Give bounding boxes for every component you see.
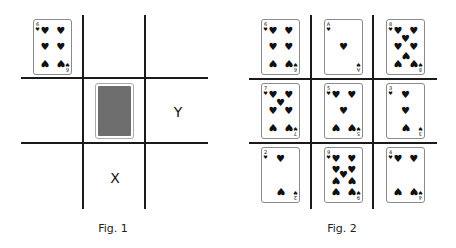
heart-icon: ♥ [332, 154, 341, 164]
heart-icon: ♥ [276, 154, 285, 164]
heart-icon: ♥ [409, 58, 418, 68]
card-index: 8♥ [388, 22, 393, 32]
heart-icon: ♥ [347, 90, 356, 100]
playing-card: 6♥6♥♥♥♥♥♥♥ [33, 19, 72, 75]
heart-icon: ♥ [332, 175, 341, 185]
cell-label-y: Y [174, 104, 183, 120]
grid-line-vertical [372, 15, 374, 209]
card-index: 2♥ [293, 190, 298, 200]
playing-card: 6♥6♥♥♥♥♥♥♥ [261, 19, 300, 75]
heart-icon: ♥ [269, 26, 278, 36]
heart-icon: ♥ [284, 122, 293, 132]
card-index: 9♥ [326, 150, 331, 160]
grid-line-horizontal [21, 77, 208, 79]
heart-icon: ♥ [284, 58, 293, 68]
card-index: 5♥ [356, 126, 361, 136]
card-index: 8♥ [418, 62, 423, 72]
heart-icon: ♥ [332, 186, 341, 196]
grid-line-vertical [144, 15, 146, 209]
heart-icon: ♥ [269, 42, 278, 52]
card-index: 2♥ [263, 150, 268, 160]
card-index: 3♥ [388, 86, 393, 96]
card-index: 3♥ [418, 126, 423, 136]
heart-icon: ♥ [347, 165, 356, 175]
heart-icon: ♥ [347, 122, 356, 132]
heart-icon: ♥ [284, 26, 293, 36]
heart-icon: ♥ [347, 186, 356, 196]
playing-card: 9♥9♥♥♥♥♥♥♥♥♥♥ [324, 147, 363, 203]
grid-line-horizontal [21, 142, 208, 144]
heart-icon: ♥ [56, 26, 65, 36]
heart-icon: ♥ [269, 106, 278, 116]
figure-caption: Fig. 2 [327, 222, 357, 235]
heart-icon: ♥ [409, 186, 418, 196]
figure-caption: Fig. 1 [98, 222, 128, 235]
heart-icon: ♥ [347, 154, 356, 164]
heart-icon: ♥ [41, 58, 50, 68]
cell-label-x: X [110, 170, 120, 186]
heart-icon: ♥ [409, 26, 418, 36]
grid-line-vertical [82, 15, 84, 209]
figure-2: 6♥6♥♥♥♥♥♥♥ A♥A♥♥ 8♥8♥♥♥♥♥♥♥♥♥ 7♥7♥♥♥♥♥♥♥… [228, 0, 456, 248]
heart-icon: ♥ [56, 42, 65, 52]
card-index: 6♥ [35, 22, 40, 32]
heart-icon: ♥ [284, 90, 293, 100]
card-index: 6♥ [293, 62, 298, 72]
heart-icon: ♥ [269, 58, 278, 68]
card-index: 4♥ [388, 150, 393, 160]
heart-icon: ♥ [401, 106, 410, 116]
heart-icon: ♥ [284, 106, 293, 116]
card-index: 9♥ [356, 190, 361, 200]
playing-card: 4♥4♥♥♥♥♥ [386, 147, 425, 203]
grid-line-vertical [310, 15, 312, 209]
heart-icon: ♥ [401, 90, 410, 100]
card-index: A♥ [326, 22, 331, 32]
heart-icon: ♥ [347, 175, 356, 185]
card-back-pattern [98, 86, 131, 136]
card-index: 5♥ [326, 86, 331, 96]
card-index: 6♥ [263, 22, 268, 32]
card-index: 7♥ [263, 86, 268, 96]
heart-icon: ♥ [41, 42, 50, 52]
grid-line-horizontal [249, 78, 437, 80]
heart-icon: ♥ [284, 42, 293, 52]
heart-icon: ♥ [339, 42, 348, 52]
playing-card: 3♥3♥♥♥♥ [386, 83, 425, 139]
heart-icon: ♥ [394, 186, 403, 196]
heart-icon: ♥ [41, 26, 50, 36]
heart-icon: ♥ [56, 58, 65, 68]
playing-card: 7♥7♥♥♥♥♥♥♥♥ [261, 83, 300, 139]
heart-icon: ♥ [409, 154, 418, 164]
heart-icon: ♥ [332, 90, 341, 100]
heart-icon: ♥ [409, 42, 418, 52]
grid-line-horizontal [249, 142, 437, 144]
card-index: 4♥ [418, 190, 423, 200]
heart-icon: ♥ [332, 122, 341, 132]
heart-icon: ♥ [394, 154, 403, 164]
card-index: 6♥ [65, 62, 70, 72]
playing-card: 2♥2♥♥♥ [261, 147, 300, 203]
heart-icon: ♥ [394, 58, 403, 68]
card-index: 7♥ [293, 126, 298, 136]
figure-1: 6♥6♥♥♥♥♥♥♥ Y X Fig. 1 [0, 0, 228, 248]
card-index: A♥ [356, 62, 361, 72]
playing-card: A♥A♥♥ [324, 19, 363, 75]
heart-icon: ♥ [401, 122, 410, 132]
face-down-card [95, 83, 134, 139]
playing-card: 5♥5♥♥♥♥♥♥ [324, 83, 363, 139]
heart-icon: ♥ [339, 106, 348, 116]
heart-icon: ♥ [269, 122, 278, 132]
heart-icon: ♥ [276, 186, 285, 196]
playing-card: 8♥8♥♥♥♥♥♥♥♥♥ [386, 19, 425, 75]
